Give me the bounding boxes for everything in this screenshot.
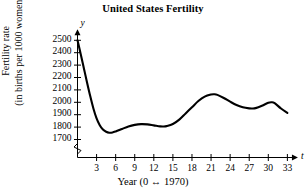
y-tick-label: 2000 <box>38 96 72 106</box>
y-tick-label: 2100 <box>38 83 72 93</box>
fertility-curve <box>78 40 288 132</box>
x-tick-label: 33 <box>275 163 299 173</box>
y-tick-label: 2200 <box>38 71 72 81</box>
x-axis-letter: t <box>301 151 304 161</box>
y-tick-label: 2400 <box>38 46 72 56</box>
y-tick-label: 2500 <box>38 34 72 44</box>
axes-group <box>74 29 298 160</box>
y-axis-arrowhead <box>75 29 81 35</box>
fertility-chart-figure: United States Fertility Fertility rate (… <box>0 0 306 196</box>
y-tick-label: 2300 <box>38 59 72 69</box>
tick-marks-group <box>74 40 287 161</box>
y-tick-label: 1800 <box>38 121 72 131</box>
y-tick-label: 1700 <box>38 133 72 143</box>
y-tick-label: 1900 <box>38 108 72 118</box>
y-axis-letter: y <box>81 18 85 28</box>
data-series-group <box>78 40 288 132</box>
x-axis-arrowhead <box>292 155 298 161</box>
